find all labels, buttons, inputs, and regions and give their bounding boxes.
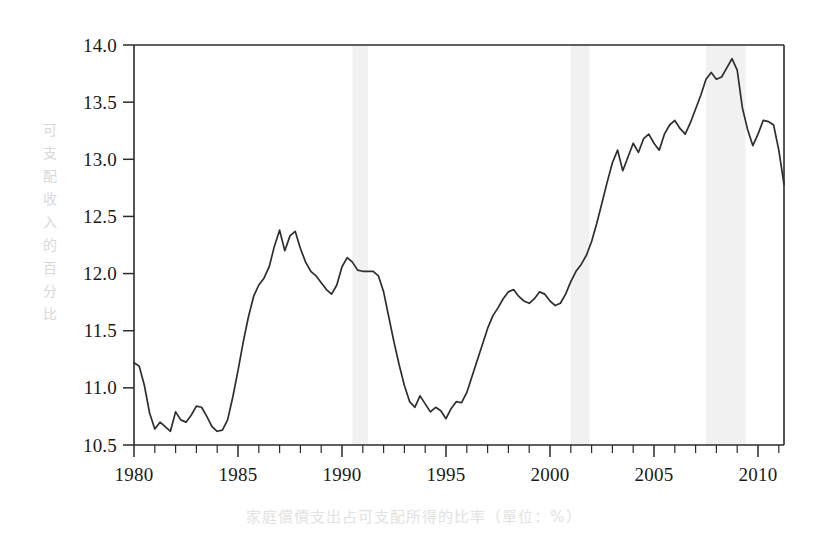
line-chart: 10.511.011.512.012.513.013.514.0 1980198… [0, 0, 828, 550]
y-tick-label-11.5: 11.5 [84, 320, 117, 341]
recession-band-0 [352, 45, 368, 445]
y-tick-label-11.0: 11.0 [84, 377, 117, 398]
y-axis-label-char: 配 [43, 168, 58, 184]
y-tick-label-12.5: 12.5 [83, 206, 117, 227]
x-tick-label-2000: 2000 [531, 464, 570, 485]
recession-band-1 [571, 45, 590, 445]
y-axis-label-char: 支 [43, 145, 58, 161]
y-tick-label-14.0: 14.0 [83, 35, 117, 56]
y-axis-label-char: 分 [43, 283, 58, 299]
y-tick-label-10.5: 10.5 [83, 435, 117, 456]
x-tick-label-2010: 2010 [739, 464, 778, 485]
x-tick-label-1990: 1990 [323, 464, 362, 485]
y-axis-label: 可支配收入的百分比 [43, 122, 58, 322]
y-tick-label-13.0: 13.0 [83, 149, 117, 170]
y-tick-label-13.5: 13.5 [83, 92, 117, 113]
y-axis-label-char: 收 [43, 191, 58, 207]
x-tick-label-1980: 1980 [115, 464, 154, 485]
recession-band-2 [706, 45, 746, 445]
x-tick-label-1985: 1985 [219, 464, 258, 485]
chart-caption: 家庭償債支出占可支配所得的比率（單位：%） [246, 508, 581, 526]
y-axis-label-char: 入 [43, 214, 58, 230]
x-tick-label-2005: 2005 [635, 464, 674, 485]
x-tick-label-1995: 1995 [427, 464, 466, 485]
figure-container: 10.511.011.512.012.513.013.514.0 1980198… [0, 0, 828, 550]
y-tick-label-12.0: 12.0 [83, 263, 117, 284]
y-axis-label-char: 可 [43, 122, 58, 138]
y-axis-label-char: 百 [43, 260, 58, 276]
y-axis-label-char: 的 [43, 237, 58, 253]
y-axis-label-char: 比 [43, 306, 58, 322]
